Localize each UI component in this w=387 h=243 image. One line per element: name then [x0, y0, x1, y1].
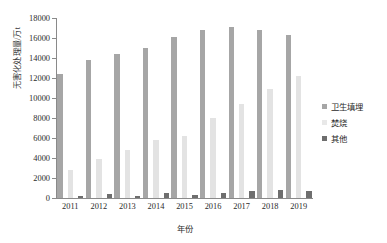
- chart-legend: 卫生填埋焚烧其他: [322, 98, 363, 146]
- legend-swatch-icon: [322, 136, 327, 141]
- bar-group: [114, 18, 140, 198]
- bar-焚烧-2015: [182, 136, 187, 198]
- y-tick-label: 2000: [33, 174, 50, 183]
- y-tick-label: 18000: [29, 14, 50, 23]
- bar-焚烧-2012: [96, 159, 101, 198]
- bar-group: [171, 18, 197, 198]
- y-tick-label: 8000: [33, 114, 50, 123]
- bar-group: [257, 18, 283, 198]
- bar-其他-2012: [107, 194, 112, 198]
- bar-group: [229, 18, 255, 198]
- bar-卫生填埋-2018: [257, 30, 262, 198]
- bar-卫生填埋-2015: [171, 37, 176, 198]
- bar-其他-2019: [306, 191, 311, 198]
- bar-group: [200, 18, 226, 198]
- x-axis-title: 年份: [56, 222, 313, 234]
- bar-其他-2018: [278, 190, 283, 198]
- x-axis-line: [56, 198, 313, 199]
- y-tick-mark: [52, 18, 56, 19]
- bar-焚烧-2018: [267, 89, 272, 198]
- bar-其他-2011: [78, 196, 83, 199]
- bar-其他-2015: [192, 195, 197, 199]
- y-tick-label: 16000: [29, 34, 50, 43]
- y-tick-label: 4000: [33, 154, 50, 163]
- bar-卫生填埋-2012: [86, 60, 91, 198]
- legend-item-其他[interactable]: 其他: [322, 130, 363, 146]
- y-tick-mark: [52, 98, 56, 99]
- legend-label: 其他: [331, 132, 347, 144]
- bar-卫生填埋-2017: [229, 27, 234, 198]
- y-tick-mark: [52, 38, 56, 39]
- y-axis-title: 无害化处理量/万t: [10, 0, 22, 118]
- legend-label: 焚烧: [331, 116, 347, 128]
- bar-焚烧-2011: [68, 170, 73, 198]
- bar-卫生填埋-2016: [200, 30, 205, 198]
- legend-swatch-icon: [322, 120, 327, 125]
- y-tick-mark: [52, 118, 56, 119]
- y-tick-mark: [52, 198, 56, 199]
- legend-item-焚烧[interactable]: 焚烧: [322, 114, 363, 130]
- bar-其他-2016: [221, 193, 226, 198]
- x-tick-label: 2019: [279, 202, 319, 211]
- y-tick-mark: [52, 78, 56, 79]
- plot-area: 0200040006000800010000120001400016000180…: [56, 18, 313, 198]
- y-tick-mark: [52, 138, 56, 139]
- y-tick-mark: [52, 58, 56, 59]
- y-tick-label: 10000: [29, 94, 50, 103]
- bar-焚烧-2017: [239, 104, 244, 198]
- y-tick-mark: [52, 158, 56, 159]
- legend-item-卫生填埋[interactable]: 卫生填埋: [322, 98, 363, 114]
- bar-chart: 无害化处理量/万t 020004000600080001000012000140…: [0, 0, 387, 243]
- bar-group: [286, 18, 312, 198]
- legend-label: 卫生填埋: [331, 100, 363, 112]
- y-tick-label: 14000: [29, 54, 50, 63]
- bar-group: [86, 18, 112, 198]
- bar-焚烧-2014: [153, 140, 158, 198]
- y-tick-label: 12000: [29, 74, 50, 83]
- bar-其他-2013: [135, 196, 140, 199]
- bar-焚烧-2013: [125, 150, 130, 198]
- bar-group: [143, 18, 169, 198]
- bar-卫生填埋-2014: [143, 48, 148, 198]
- bar-卫生填埋-2013: [114, 54, 119, 198]
- bar-卫生填埋-2019: [286, 35, 291, 198]
- bar-焚烧-2016: [210, 118, 215, 198]
- bar-卫生填埋-2011: [57, 74, 62, 198]
- legend-swatch-icon: [322, 104, 327, 109]
- y-tick-mark: [52, 178, 56, 179]
- bar-group: [57, 18, 83, 198]
- bar-其他-2017: [249, 191, 254, 198]
- y-tick-label: 6000: [33, 134, 50, 143]
- bar-其他-2014: [164, 193, 169, 199]
- bar-焚烧-2019: [296, 76, 301, 198]
